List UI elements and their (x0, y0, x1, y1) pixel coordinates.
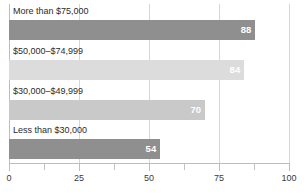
bar-group: $30,000–$49,99970 (9, 84, 289, 124)
category-label: $50,000–$74,999 (13, 46, 83, 57)
bar: 54 (9, 139, 160, 159)
x-tick-major (9, 164, 10, 171)
plot-area: More than $75,00088$50,000–$74,99984$30,… (9, 4, 289, 163)
x-tick-minor (254, 164, 255, 170)
x-tick-major (289, 164, 290, 171)
gridline (289, 4, 290, 163)
bar-value-label: 70 (190, 105, 201, 115)
x-tick-major (149, 164, 150, 171)
x-tick-minor (114, 164, 115, 170)
category-label: Less than $30,000 (13, 125, 87, 136)
category-label: $30,000–$49,999 (13, 86, 83, 97)
bar-group: $50,000–$74,99984 (9, 44, 289, 84)
bar-group: More than $75,00088 (9, 4, 289, 44)
bar-value-label: 88 (241, 25, 252, 35)
bar-value-label: 84 (230, 65, 241, 75)
x-tick-label: 50 (144, 173, 154, 183)
bar: 84 (9, 60, 244, 80)
x-tick-label: 25 (74, 173, 84, 183)
x-tick-minor (184, 164, 185, 170)
category-label: More than $75,000 (13, 6, 89, 17)
x-tick-label: 100 (281, 173, 296, 183)
x-tick-major (219, 164, 220, 171)
bar: 88 (9, 20, 255, 40)
x-tick-label: 75 (214, 173, 224, 183)
bar: 70 (9, 100, 205, 120)
x-tick-major (79, 164, 80, 171)
bar-value-label: 54 (146, 144, 157, 154)
x-tick-minor (44, 164, 45, 170)
x-tick-label: 0 (6, 173, 11, 183)
bar-group: Less than $30,00054 (9, 123, 289, 163)
bar-chart: More than $75,00088$50,000–$74,99984$30,… (0, 0, 307, 194)
